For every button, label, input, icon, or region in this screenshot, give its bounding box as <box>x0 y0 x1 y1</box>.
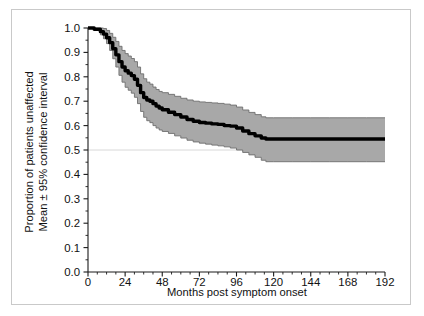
y-tick-label: 0.1 <box>50 242 80 254</box>
y-tick-label: 0.7 <box>50 95 80 107</box>
y-axis-title: Proportion of patients unaffected Mean ±… <box>22 30 52 274</box>
confidence-interval-band <box>88 28 385 162</box>
y-tick-label: 0.6 <box>50 120 80 132</box>
y-axis-title-line1: Proportion of patients unaffected <box>22 30 36 274</box>
chart-page: 0.00.10.20.30.40.50.60.70.80.91.0 024487… <box>0 0 424 316</box>
y-tick-label: 0.5 <box>50 144 80 156</box>
y-tick-label: 0.4 <box>50 168 80 180</box>
y-tick-label: 0.9 <box>50 46 80 58</box>
y-axis-title-line2: Mean ± 95% confidence interval <box>36 30 50 274</box>
y-axis-tick-labels: 0.00.10.20.30.40.50.60.70.80.91.0 <box>48 0 80 316</box>
y-tick-label: 0.3 <box>50 193 80 205</box>
x-axis-title: Months post symptom onset <box>88 286 386 298</box>
y-tick-label: 0.8 <box>50 71 80 83</box>
y-tick-label: 0.2 <box>50 217 80 229</box>
y-tick-label: 1.0 <box>50 22 80 34</box>
